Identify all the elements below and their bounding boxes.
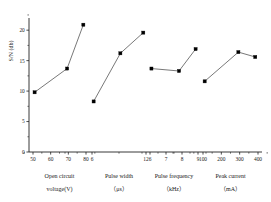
x-tick-label: 300 (236, 156, 244, 162)
group-caption-line2: （kHz） (163, 186, 185, 192)
sn-ratio-main-effects-plot: 05101520S/N (db)50607080Open circuitvolt… (0, 0, 271, 202)
x-tick-label: 400 (254, 156, 262, 162)
group-2: 612Pulse width（μs） (65, 31, 173, 192)
x-tick-label: 7 (165, 156, 168, 162)
group-caption-line2: （μs） (110, 186, 128, 192)
series-line (205, 52, 256, 81)
x-tick-label: 80 (83, 156, 89, 162)
x-tick-label: 70 (66, 156, 72, 162)
data-point-marker (237, 51, 240, 54)
series-line (151, 49, 195, 71)
group-1: 50607080Open circuitvoltage(V) (24, 23, 95, 193)
group-caption-line2: voltage(V) (47, 186, 73, 193)
data-point-marker (254, 55, 257, 58)
data-point-marker (203, 80, 206, 83)
data-point-marker (150, 67, 153, 70)
y-tick-label: 15 (19, 58, 25, 64)
data-point-marker (119, 52, 122, 55)
x-tick-label: 100 (199, 156, 207, 162)
x-tick-label: 60 (48, 156, 54, 162)
axis-frame (29, 18, 262, 152)
data-point-marker (194, 48, 197, 51)
group-caption-line1: Open circuit (45, 173, 75, 179)
group-caption-line1: Pulse width (105, 173, 133, 179)
data-point-marker (92, 100, 95, 103)
data-point-marker (82, 23, 85, 26)
data-point-marker (142, 31, 145, 34)
data-point-marker (33, 91, 36, 94)
group-caption-line1: Pulse frequency (155, 173, 194, 179)
x-tick-label: 200 (217, 156, 225, 162)
x-tick-label: 6 (91, 156, 94, 162)
y-axis-label: S/N (db) (8, 41, 15, 62)
x-tick-label: 50 (30, 156, 36, 162)
chart-figure: 05101520S/N (db)50607080Open circuitvolt… (0, 0, 271, 202)
y-tick-label: 20 (19, 27, 25, 33)
group-3: 6789Pulse frequency（kHz） (142, 48, 206, 192)
data-point-marker (177, 69, 180, 72)
series-line (35, 25, 84, 93)
x-tick-label: 6 (149, 156, 152, 162)
group-4: 100200300400Peak current（mA） (194, 51, 267, 192)
y-tick-label: 5 (22, 118, 25, 124)
y-tick-label: 10 (19, 88, 25, 94)
data-point-marker (66, 67, 69, 70)
group-caption-line1: Peak current (215, 173, 245, 179)
y-tick-label: 0 (22, 149, 25, 155)
group-caption-line2: （mA） (220, 186, 241, 192)
x-tick-label: 8 (181, 156, 184, 162)
series-line (94, 33, 144, 102)
